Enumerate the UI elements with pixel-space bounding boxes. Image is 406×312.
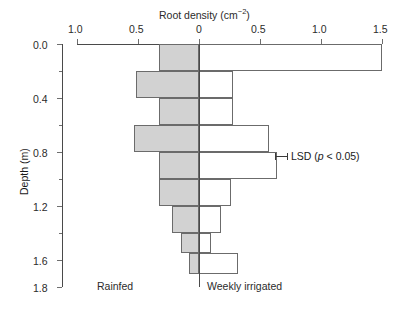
- bar-right: [199, 233, 211, 253]
- bar-right: [199, 179, 231, 206]
- lsd-label-suffix: < 0.05): [324, 150, 360, 162]
- y-axis-minor-tick: [59, 233, 62, 234]
- x-axis-tick-label: 0: [196, 24, 202, 35]
- y-axis-tick-label: 1.6: [33, 256, 48, 267]
- y-axis-tick: [57, 44, 62, 45]
- x-axis-tick-label: 0.5: [251, 24, 266, 35]
- lsd-cap-left: [275, 153, 276, 160]
- x-axis-tick: [77, 39, 78, 44]
- chart-figure: Root density (cm−2) Depth (m) 1.00.500.5…: [0, 0, 406, 312]
- x-axis-tick-label: 1.0: [312, 24, 327, 35]
- bar-left: [136, 71, 199, 98]
- x-axis-tick-label: 0.5: [129, 24, 144, 35]
- legend-label-rainfed: Rainfed: [97, 281, 133, 292]
- y-axis-tick-label: 1.2: [33, 202, 48, 213]
- y-axis-tick: [57, 152, 62, 153]
- bar-left: [159, 98, 199, 125]
- bar-left: [159, 152, 199, 179]
- y-axis-tick-label: 0.0: [33, 40, 48, 51]
- lsd-error-bar: [275, 156, 287, 157]
- bar-right: [199, 253, 238, 274]
- legend-label-irrigated: Weekly irrigated: [207, 281, 282, 292]
- x-axis-tick-label: 1.5: [373, 24, 388, 35]
- zero-reference-line: [199, 44, 200, 287]
- y-axis-line: [62, 44, 63, 287]
- bar-right: [199, 125, 269, 152]
- y-axis-tick-label: 0.8: [33, 148, 48, 159]
- bar-left: [134, 125, 199, 152]
- y-axis-minor-tick: [59, 179, 62, 180]
- x-axis-tick: [138, 39, 139, 44]
- y-axis-minor-tick: [59, 71, 62, 72]
- bar-right: [199, 44, 382, 71]
- y-axis-tick-label: 1.8: [33, 283, 48, 294]
- bar-left: [159, 44, 199, 71]
- lsd-label-prefix: LSD (: [291, 150, 318, 162]
- bar-left: [189, 253, 199, 274]
- lsd-cap-right: [287, 153, 288, 160]
- bar-right: [199, 206, 221, 233]
- bar-right: [199, 71, 233, 98]
- y-axis-tick: [57, 98, 62, 99]
- bar-left: [172, 206, 199, 233]
- bar-right: [199, 98, 233, 125]
- y-axis-minor-tick: [59, 125, 62, 126]
- x-axis-tick-label: 1.0: [68, 24, 83, 35]
- y-axis-tick: [57, 206, 62, 207]
- bar-left: [159, 179, 199, 206]
- lsd-label: LSD (p < 0.05): [291, 150, 360, 162]
- y-axis-tick: [57, 260, 62, 261]
- bar-right: [199, 152, 277, 179]
- plot-area: 1.00.500.51.01.50.00.40.81.21.61.8LSD (p…: [0, 0, 406, 312]
- y-axis-tick: [57, 287, 62, 288]
- x-axis-tick: [382, 39, 383, 44]
- bar-left: [181, 233, 199, 253]
- y-axis-tick-label: 0.4: [33, 94, 48, 105]
